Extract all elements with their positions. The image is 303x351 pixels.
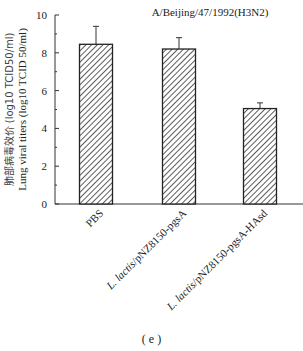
y-tick-label: 2 (42, 160, 48, 172)
y-tick-label: 4 (42, 122, 48, 134)
chart-title: A/Beijing/47/1992(H3N2) (152, 6, 269, 19)
figure-caption: ( e ) (0, 332, 303, 347)
y-tick-label: 0 (42, 198, 48, 210)
bar (80, 44, 113, 204)
y-tick-label: 10 (36, 9, 48, 21)
bar-chart: 0246810A/Beijing/47/1992(H3N2)肺部病毒效价 (lo… (0, 0, 303, 330)
y-axis-label-cn: 肺部病毒效价 (log10 TCID50/ml) (3, 32, 15, 186)
y-tick-label: 6 (42, 85, 48, 97)
bar (163, 49, 196, 204)
x-tick-label: PBS (83, 207, 105, 229)
x-tick-label: L. lactis/pNZ8150-pgsA (103, 207, 188, 292)
y-axis-label: Lung viral titers (log10 TCID 50/ml) (16, 28, 29, 191)
y-tick-label: 8 (42, 47, 48, 59)
bar (244, 109, 277, 204)
